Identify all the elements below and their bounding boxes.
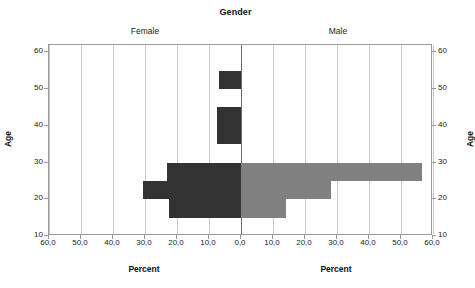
- x-tick-mark: [208, 235, 209, 239]
- gridline: [305, 45, 306, 234]
- x-tick-mark: [368, 235, 369, 239]
- y-axis-tick-left-20: 20: [17, 193, 43, 202]
- y-axis-title-right: Age: [465, 119, 475, 159]
- bar-female-20-25: [143, 181, 241, 199]
- bar-female-40-45: [217, 107, 241, 125]
- gridline: [401, 45, 402, 234]
- bar-male-20-25: [241, 181, 331, 199]
- bar-male-25-30: [241, 163, 422, 181]
- y-axis-title-left: Age: [3, 119, 13, 159]
- gridline: [369, 45, 370, 234]
- gridline: [113, 45, 114, 234]
- y-axis-tick-right-20: 20: [438, 193, 464, 202]
- x-axis-tick-left-2: 40,0: [95, 238, 129, 247]
- y-axis-tick-left-40: 40: [17, 120, 43, 129]
- x-tick-mark: [432, 235, 433, 239]
- x-tick-mark: [144, 235, 145, 239]
- chart-title: Gender: [0, 7, 471, 17]
- panel-label-female: Female: [85, 26, 205, 36]
- x-tick-mark: [112, 235, 113, 239]
- x-tick-mark: [240, 235, 241, 239]
- y-axis-tick-right-60: 60: [438, 46, 464, 55]
- x-axis-tick-right-3: 30,0: [319, 238, 353, 247]
- x-axis-tick-left-5: 10,0: [191, 238, 225, 247]
- x-tick-mark: [80, 235, 81, 239]
- panel-label-male: Male: [278, 26, 398, 36]
- y-tick-mark: [44, 162, 48, 163]
- x-axis-tick-left-0: 60,0: [31, 238, 65, 247]
- x-axis-tick-right-5: 50,0: [383, 238, 417, 247]
- y-tick-mark: [44, 51, 48, 52]
- x-axis-tick-right-1: 10,0: [255, 238, 289, 247]
- bar-male-15-20: [241, 199, 286, 217]
- gridline: [49, 45, 50, 234]
- bar-female-25-30: [167, 163, 241, 181]
- y-tick-mark: [432, 198, 436, 199]
- x-axis-tick-left-1: 50,0: [63, 238, 97, 247]
- y-tick-mark: [44, 125, 48, 126]
- bar-female-15-20: [169, 199, 241, 217]
- y-tick-mark: [432, 88, 436, 89]
- y-axis-tick-right-50: 50: [438, 83, 464, 92]
- x-axis-tick-right-4: 40,0: [351, 238, 385, 247]
- x-tick-mark: [48, 235, 49, 239]
- x-tick-mark: [272, 235, 273, 239]
- bar-female-35-40: [217, 126, 241, 144]
- x-axis-title-right: Percent: [276, 264, 396, 274]
- y-tick-mark: [432, 125, 436, 126]
- bar-female-50-55: [219, 71, 241, 89]
- gridline: [145, 45, 146, 234]
- x-axis-tick-right-6: 60,0: [415, 238, 449, 247]
- y-axis-tick-right-40: 40: [438, 120, 464, 129]
- y-axis-tick-left-50: 50: [17, 83, 43, 92]
- x-axis-tick-right-2: 20,0: [287, 238, 321, 247]
- y-tick-mark: [44, 198, 48, 199]
- x-tick-mark: [176, 235, 177, 239]
- x-axis-tick-left-3: 30,0: [127, 238, 161, 247]
- gridline: [81, 45, 82, 234]
- y-tick-mark: [432, 162, 436, 163]
- gridline: [433, 45, 434, 234]
- x-tick-mark: [336, 235, 337, 239]
- y-tick-mark: [432, 51, 436, 52]
- plot-area: [48, 44, 432, 235]
- x-tick-mark: [304, 235, 305, 239]
- x-axis-tick-left-4: 20,0: [159, 238, 193, 247]
- x-tick-mark: [400, 235, 401, 239]
- gridline: [337, 45, 338, 234]
- y-axis-tick-left-30: 30: [17, 157, 43, 166]
- y-tick-mark: [44, 88, 48, 89]
- x-axis-title-left: Percent: [84, 264, 204, 274]
- y-axis-tick-right-30: 30: [438, 157, 464, 166]
- y-axis-tick-left-60: 60: [17, 46, 43, 55]
- x-axis-tick-left-6: 0,0: [223, 238, 257, 247]
